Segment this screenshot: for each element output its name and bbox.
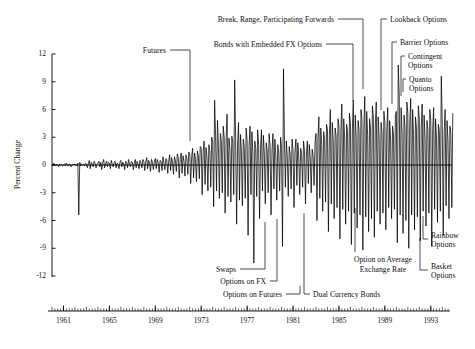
annotation-label-options-on-fx: Options on FX (170, 277, 266, 286)
x-tick-label-1969: 1969 (139, 316, 171, 325)
annotation-label-basket-options-line1: Basket (431, 262, 475, 271)
y-tick-label-12: 12 (18, 49, 46, 58)
leader-line-dual-currency-bonds (304, 213, 310, 294)
y-tick-label--12: -12 (18, 271, 46, 280)
annotation-label-option-avg-rate-line2: Exchange Rate (333, 265, 433, 274)
annotation-label-break-range-forwards: Break, Range, Participating Forwards (88, 15, 334, 24)
annotation-label-dual-currency-bonds: Dual Currency Bonds (313, 290, 423, 299)
leader-line-lookback-options (381, 19, 387, 110)
leader-line-rainbow-options (423, 216, 428, 239)
annotation-label-options-on-futures: Options on Futures (170, 290, 282, 299)
leader-line-options-on-fx (270, 219, 277, 281)
annotation-label-lookback-options: Lookback Options (390, 15, 474, 24)
y-tick-label--3: -3 (18, 188, 46, 197)
annotation-label-contingent-options-line1: Contingent (408, 52, 470, 61)
annotation-label-option-avg-rate-line1: Option on Average (333, 255, 433, 264)
x-tick-label-1961: 1961 (47, 316, 79, 325)
leader-line-break-range-forwards (338, 19, 363, 89)
annotation-label-contingent-options-line2: Options (408, 61, 470, 70)
x-tick-label-1965: 1965 (93, 316, 125, 325)
y-tick-label-9: 9 (18, 77, 46, 86)
annotation-label-swaps: Swaps (178, 265, 236, 274)
annotation-label-basket-options-line2: Options (431, 271, 475, 280)
x-tick-label-1993: 1993 (415, 316, 447, 325)
leader-line-barrier-options (392, 42, 397, 104)
data-series-line (52, 65, 453, 263)
y-tick-label--9: -9 (18, 243, 46, 252)
annotation-label-rainbow-options-line2: Options (431, 240, 475, 249)
y-axis-title: Percent Change (13, 125, 22, 205)
y-tick-label--6: -6 (18, 216, 46, 225)
x-tick-label-1977: 1977 (231, 316, 263, 325)
leader-line-swaps (240, 222, 265, 269)
y-tick-label-6: 6 (18, 105, 46, 114)
annotation-label-barrier-options: Barrier Options (400, 38, 475, 47)
x-tick-label-1985: 1985 (323, 316, 355, 325)
annotation-label-quanto-options-line2: Options (409, 84, 471, 93)
annotation-label-rainbow-options-line1: Rainbow (431, 231, 475, 240)
x-tick-label-1989: 1989 (369, 316, 401, 325)
leader-line-options-on-futures (286, 286, 300, 294)
leader-line-futures (170, 50, 190, 141)
y-tick-label-3: 3 (18, 132, 46, 141)
leader-line-bonds-embedded-fx (326, 44, 353, 101)
leader-line-quanto-options (403, 79, 406, 92)
y-tick-label-0: 0 (18, 160, 46, 169)
x-tick-label-1973: 1973 (185, 316, 217, 325)
annotation-label-bonds-embedded-fx: Bonds with Embedded FX Options (100, 40, 322, 49)
x-tick-label-1981: 1981 (277, 316, 309, 325)
annotation-label-quanto-options-line1: Quanto (409, 75, 471, 84)
